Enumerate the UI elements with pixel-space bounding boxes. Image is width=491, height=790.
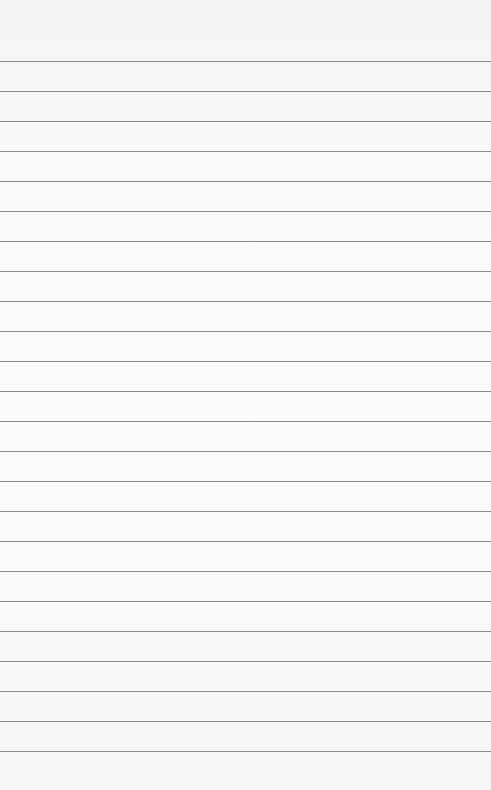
ruled-line <box>0 121 491 122</box>
lined-paper <box>0 0 491 790</box>
ruled-line <box>0 451 491 452</box>
ruled-line <box>0 661 491 662</box>
ruled-line <box>0 91 491 92</box>
ruled-line <box>0 691 491 692</box>
ruled-line <box>0 211 491 212</box>
ruled-line <box>0 361 491 362</box>
ruled-line <box>0 601 491 602</box>
ruled-line <box>0 271 491 272</box>
ruled-line <box>0 571 491 572</box>
ruled-line <box>0 751 491 752</box>
ruled-line <box>0 151 491 152</box>
ruled-line <box>0 241 491 242</box>
ruled-line <box>0 331 491 332</box>
ruled-line <box>0 511 491 512</box>
ruled-line <box>0 301 491 302</box>
ruled-line <box>0 631 491 632</box>
ruled-line <box>0 421 491 422</box>
ruled-line <box>0 61 491 62</box>
ruled-line <box>0 181 491 182</box>
ruled-line <box>0 481 491 482</box>
ruled-line <box>0 541 491 542</box>
ruled-line <box>0 391 491 392</box>
ruled-line <box>0 721 491 722</box>
